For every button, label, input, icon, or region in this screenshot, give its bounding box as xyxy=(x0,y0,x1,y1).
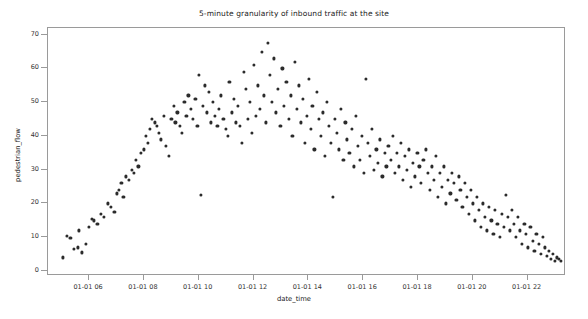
data-point xyxy=(397,165,400,168)
data-point xyxy=(488,205,491,208)
data-point xyxy=(323,155,326,158)
data-point xyxy=(441,185,444,188)
data-point xyxy=(381,175,384,178)
data-point xyxy=(521,242,524,245)
data-point xyxy=(543,246,546,249)
data-point xyxy=(303,141,306,144)
data-point xyxy=(416,151,419,154)
data-point xyxy=(313,148,316,151)
data-point xyxy=(289,94,292,97)
data-point xyxy=(455,198,458,201)
data-point xyxy=(279,124,282,127)
data-point xyxy=(297,84,300,87)
data-point xyxy=(358,158,361,161)
x-tick-label: 01-01 10 xyxy=(168,283,228,291)
data-point xyxy=(216,124,219,127)
data-point xyxy=(246,118,249,121)
data-point xyxy=(547,249,550,252)
data-point xyxy=(285,80,288,83)
x-tick-label: 01-01 06 xyxy=(58,283,118,291)
data-point xyxy=(375,148,378,151)
data-point xyxy=(218,107,221,110)
data-points-layer xyxy=(48,28,564,274)
x-tick-label: 01-01 22 xyxy=(497,283,557,291)
data-point xyxy=(471,202,474,205)
y-tick-label: 70 xyxy=(13,30,39,38)
data-point xyxy=(348,151,351,154)
data-point xyxy=(459,188,462,191)
data-point xyxy=(249,101,252,104)
data-point xyxy=(254,114,257,117)
data-point xyxy=(99,212,102,215)
data-point xyxy=(364,77,367,80)
data-point xyxy=(311,104,314,107)
data-point xyxy=(523,222,526,225)
data-point xyxy=(274,111,277,114)
data-point xyxy=(277,87,280,90)
data-point xyxy=(385,165,388,168)
data-point xyxy=(346,138,349,141)
data-point xyxy=(226,134,229,137)
data-point xyxy=(389,158,392,161)
x-tick-mark xyxy=(88,275,89,280)
data-point xyxy=(457,175,460,178)
data-point xyxy=(256,84,259,87)
data-point xyxy=(230,111,233,114)
data-point xyxy=(428,188,431,191)
plot-area xyxy=(47,27,565,275)
data-point xyxy=(362,171,365,174)
data-point xyxy=(167,155,170,158)
x-tick-label: 01-01 16 xyxy=(332,283,392,291)
data-point xyxy=(96,222,99,225)
data-point xyxy=(477,209,480,212)
data-point xyxy=(373,168,376,171)
data-point xyxy=(525,232,528,235)
data-point xyxy=(132,171,135,174)
data-point xyxy=(205,111,208,114)
data-point xyxy=(106,202,109,205)
data-point xyxy=(281,67,284,70)
data-point xyxy=(502,225,505,228)
y-axis-label: pedestrian_flow xyxy=(14,95,22,215)
data-point xyxy=(531,239,534,242)
data-point xyxy=(498,236,501,239)
data-point xyxy=(529,225,532,228)
data-point xyxy=(172,104,175,107)
data-point xyxy=(198,74,201,77)
data-point xyxy=(356,145,359,148)
data-point xyxy=(377,161,380,164)
data-point xyxy=(518,229,521,232)
data-point xyxy=(264,121,267,124)
data-point xyxy=(453,182,456,185)
data-point xyxy=(134,158,137,161)
data-point xyxy=(317,118,320,121)
data-point xyxy=(422,158,425,161)
data-point xyxy=(334,118,337,121)
data-point xyxy=(208,91,211,94)
data-point xyxy=(145,134,148,137)
data-point xyxy=(109,205,112,208)
data-point xyxy=(183,101,186,104)
data-point xyxy=(354,114,357,117)
data-point xyxy=(211,101,214,104)
data-point xyxy=(69,236,72,239)
data-point xyxy=(155,124,158,127)
data-point xyxy=(251,131,254,134)
data-point xyxy=(463,182,466,185)
data-point xyxy=(411,161,414,164)
data-point xyxy=(201,104,204,107)
data-point xyxy=(553,259,556,262)
data-point xyxy=(442,165,445,168)
data-point xyxy=(181,131,184,134)
y-tick-label: 40 xyxy=(13,131,39,139)
x-tick-label: 01-01 12 xyxy=(223,283,283,291)
data-point xyxy=(500,212,503,215)
data-point xyxy=(174,121,177,124)
data-point xyxy=(336,131,339,134)
data-point xyxy=(287,118,290,121)
data-point xyxy=(420,182,423,185)
data-point xyxy=(401,178,404,181)
data-point xyxy=(301,97,304,100)
data-point xyxy=(342,158,345,161)
data-point xyxy=(395,151,398,154)
